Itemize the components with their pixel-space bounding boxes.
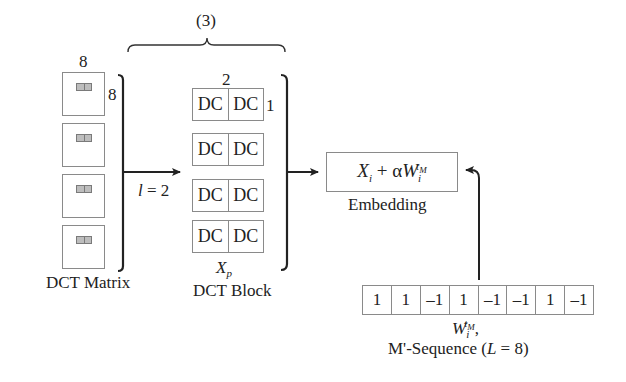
dct-matrix-block-2	[62, 123, 105, 167]
dct-matrix-block-1	[62, 72, 105, 116]
block-symbol: X	[216, 258, 226, 277]
arrow-from-sequence	[466, 170, 479, 280]
block-width-label: 2	[222, 71, 231, 88]
dct-matrix-block-4	[62, 225, 105, 269]
sequence-cell: 1	[363, 286, 391, 314]
seq-caption-prefix: M'-Sequence (	[388, 339, 487, 358]
dc-cell: DC	[228, 89, 264, 120]
embedding-formula: Xi + αWitM	[357, 160, 426, 184]
sequence-cell: –1	[506, 286, 535, 314]
dct-matrix-caption: DCT Matrix	[46, 274, 130, 291]
m-sequence-row: 1 1 –1 1 –1 –1 1 –1	[362, 285, 594, 315]
sequence-cell: 1	[535, 286, 564, 314]
matrix-width-label: 8	[79, 53, 88, 70]
seq-symbol-suffix: ,	[475, 319, 479, 338]
brace-label: (3)	[196, 12, 216, 29]
dct-block-row-3: DC DC	[192, 179, 264, 212]
dc-cell: DC	[193, 180, 228, 211]
seq-symbol-sup-sub: M	[467, 322, 475, 332]
seq-caption-var: L	[487, 339, 496, 358]
dc-cell: DC	[228, 134, 264, 165]
selection-value: = 2	[143, 181, 170, 200]
formula-x: X	[357, 160, 369, 181]
dct-block-row-1: DC DC	[192, 88, 264, 121]
dc-cell: DC	[193, 89, 228, 120]
embedding-caption: Embedding	[348, 196, 426, 213]
dc-cell: DC	[228, 221, 264, 252]
dc-cell: DC	[228, 180, 264, 211]
selection-label: l = 2	[138, 182, 169, 199]
m-sequence-caption: M'-Sequence (L = 8)	[388, 340, 529, 357]
dct-block-row-4: DC DC	[192, 220, 264, 253]
dct-block-symbol: Xp	[216, 259, 232, 279]
embedding-formula-box: Xi + αWitM	[326, 152, 458, 192]
sequence-cell: –1	[478, 286, 507, 314]
sequence-cell: 1	[391, 286, 420, 314]
dc-coefficient-tile	[76, 83, 92, 91]
dct-block-caption: DCT Block	[193, 282, 272, 299]
sequence-cell: –1	[564, 286, 593, 314]
seq-caption-suffix: = 8)	[496, 339, 528, 358]
formula-op: + α	[372, 160, 402, 181]
dc-coefficient-tile	[76, 236, 92, 244]
block-symbol-sub: p	[226, 267, 232, 279]
dct-block-row-2: DC DC	[192, 133, 264, 166]
matrix-height-label: 8	[108, 86, 117, 103]
formula-w-sup-sub: M	[419, 165, 427, 175]
m-sequence-symbol: WitM,	[452, 318, 479, 340]
sequence-cell: 1	[449, 286, 478, 314]
dc-coefficient-tile	[76, 185, 92, 193]
dc-cell: DC	[193, 134, 228, 165]
dct-matrix-block-3	[62, 174, 105, 218]
block-height-label: 1	[266, 97, 275, 114]
dc-cell: DC	[193, 221, 228, 252]
dc-coefficient-tile	[76, 134, 92, 142]
sequence-cell: –1	[420, 286, 449, 314]
top-curly-brace	[128, 38, 285, 52]
matrix-bracket	[118, 75, 123, 271]
block-bracket	[281, 75, 287, 270]
